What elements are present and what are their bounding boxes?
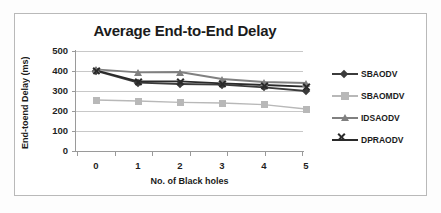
data-point-marker (302, 82, 311, 91)
x-axis-tick-mark (152, 151, 153, 156)
legend-marker-x-icon (332, 133, 358, 147)
x-axis-tick-mark (302, 151, 303, 156)
legend-marker-triangle-icon (332, 111, 358, 125)
x-axis-tick-label: 3 (210, 160, 234, 171)
y-axis-tick-label: 300 (38, 85, 68, 96)
legend-marker (340, 70, 348, 78)
y-axis-tick-label: 500 (38, 45, 68, 56)
plot-area (76, 51, 303, 151)
data-point-marker (176, 69, 184, 76)
legend-item: DPRAODV (332, 129, 424, 151)
y-axis-tick-labels: 5004003002001000 (38, 0, 68, 213)
legend-marker-diamond-icon (332, 67, 358, 81)
x-axis-tick-mark (115, 151, 116, 156)
legend-item: SBAODV (332, 63, 424, 85)
y-axis-tick-label: 0 (38, 145, 68, 156)
y-axis-tick-mark (72, 91, 76, 92)
x-axis-tick-mark (227, 151, 228, 156)
x-axis-title: No. of Black holes (76, 176, 303, 186)
x-axis-tick-label: 4 (252, 160, 276, 171)
y-axis-tick-label: 200 (38, 105, 68, 116)
x-axis-tick-mark (265, 151, 266, 156)
data-point-marker (303, 106, 310, 113)
x-axis-tick-label: 1 (126, 160, 150, 171)
legend-item: SBAOMDV (332, 85, 424, 107)
y-axis-tick-mark (72, 131, 76, 132)
legend-marker (337, 132, 346, 141)
legend-label: DPRAODV (361, 135, 404, 145)
y-axis-tick-mark (72, 151, 76, 152)
data-point-marker (176, 77, 185, 86)
legend-label: SBAOMDV (361, 91, 404, 101)
x-axis-tick-mark (190, 151, 191, 156)
legend-marker (341, 114, 349, 121)
series-line (96, 69, 306, 83)
x-axis-tick-mark (77, 151, 78, 156)
data-point-marker (134, 69, 142, 76)
y-axis-tick-mark (72, 111, 76, 112)
y-axis-tick-mark (72, 71, 76, 72)
series-line (96, 100, 306, 109)
x-axis-tick-label: 0 (84, 160, 108, 171)
legend-label: SBAODV (361, 69, 397, 79)
data-point-marker (134, 77, 143, 86)
legend-item: IDSAODV (332, 107, 424, 129)
x-axis-tick-label: 2 (168, 160, 192, 171)
data-point-marker (177, 99, 184, 106)
data-point-marker (92, 66, 101, 75)
series-lines (76, 51, 303, 151)
data-point-marker (93, 97, 100, 104)
chart-legend: SBAODVSBAOMDVIDSAODVDPRAODV (332, 63, 424, 151)
data-point-marker (219, 100, 226, 107)
y-axis-tick-label: 400 (38, 65, 68, 76)
legend-marker-square-icon (332, 89, 358, 103)
y-axis-tick-label: 100 (38, 125, 68, 136)
data-point-marker (218, 79, 227, 88)
data-point-marker (261, 101, 268, 108)
data-point-marker (135, 98, 142, 105)
y-axis-title: End-toend Delay (ms) (20, 55, 34, 150)
data-point-marker (260, 81, 269, 90)
series-line (96, 71, 306, 91)
legend-label: IDSAODV (361, 113, 400, 123)
y-axis-tick-mark (72, 51, 76, 52)
x-axis-tick-label: 5 (294, 160, 318, 171)
page-background: Average End-to-End Delay End-toend Delay… (0, 0, 441, 213)
legend-marker (341, 92, 349, 100)
chart-title: Average End-to-End Delay (60, 22, 310, 39)
